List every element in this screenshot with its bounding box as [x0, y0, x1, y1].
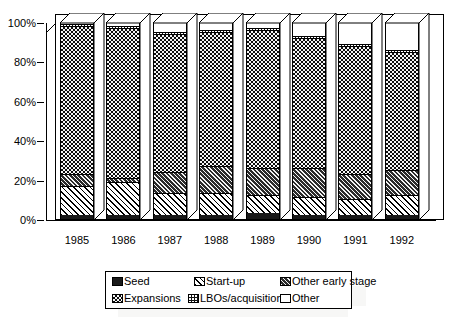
bar-group[interactable] — [153, 13, 197, 220]
bar-segment — [107, 182, 139, 215]
bar-group[interactable] — [385, 13, 429, 220]
bar-segment — [293, 168, 325, 198]
bar-segment — [154, 32, 186, 34]
y-axis-tick-label: 20% — [14, 176, 36, 186]
bar-segment — [339, 199, 371, 215]
bar-top-cap — [338, 13, 384, 25]
bar-segment — [107, 178, 139, 182]
bar-segment — [339, 44, 371, 46]
legend-item[interactable]: Expansions — [112, 291, 181, 305]
bar-segment — [386, 215, 418, 219]
bar-top-cap — [385, 13, 431, 25]
bar-segment — [247, 28, 279, 30]
bar-segment — [200, 193, 232, 215]
bar-segment — [247, 195, 279, 213]
lbos-swatch-icon — [188, 294, 199, 303]
y-axis-tick-label: 60% — [14, 97, 36, 107]
bar-front-face — [385, 23, 419, 220]
y-axis-tick-mark — [37, 62, 44, 63]
bar-segment — [247, 30, 279, 168]
bar-segment — [339, 215, 371, 219]
bar-series-container — [46, 14, 446, 230]
legend-item[interactable]: Seed — [112, 274, 150, 288]
bar-segment — [200, 30, 232, 32]
y-axis-tick-mark — [37, 220, 44, 221]
y-axis-tick-mark — [37, 102, 44, 103]
bar-segment — [61, 174, 93, 186]
bar-top-cap — [153, 13, 199, 25]
other-swatch-icon — [280, 294, 291, 303]
bar-top-cap — [60, 13, 106, 25]
bar-segment — [386, 22, 418, 50]
bar-group[interactable] — [338, 13, 382, 220]
bar-segment — [107, 26, 139, 28]
legend-row-2: ExpansionsLBOs/acquisitionsOther — [106, 291, 351, 308]
bar-top-cap — [106, 13, 152, 25]
startup-swatch-icon — [194, 277, 205, 286]
bar-group[interactable] — [60, 13, 104, 220]
legend-item[interactable]: Other — [280, 291, 320, 305]
bar-front-face — [60, 23, 94, 220]
y-axis-tick-label: 80% — [14, 57, 36, 67]
bar-top-cap — [292, 13, 338, 25]
bar-segment — [107, 215, 139, 219]
bar-front-face — [106, 23, 140, 220]
bar-front-face — [199, 23, 233, 220]
bar-group[interactable] — [246, 13, 290, 220]
legend-item-label: Expansions — [124, 292, 181, 304]
expansions-swatch-icon — [112, 294, 123, 303]
x-axis-tick-label: 1992 — [374, 234, 430, 246]
chart-figure: 100%80%60%40%20%0% 198519861987198819891… — [0, 0, 457, 335]
bar-front-face — [246, 23, 280, 220]
bar-segment — [247, 213, 279, 219]
bar-segment — [200, 215, 232, 219]
bar-segment — [61, 186, 93, 216]
legend-item[interactable]: Start-up — [194, 274, 245, 288]
bar-top-cap — [246, 13, 292, 25]
bar-group[interactable] — [199, 13, 243, 220]
legend-row-1: SeedStart-upOther early stage — [106, 274, 351, 291]
legend-item-label: LBOs/acquisitions — [200, 292, 288, 304]
bar-segment — [200, 166, 232, 194]
y-axis-tick-label: 40% — [14, 136, 36, 146]
bar-segment — [61, 26, 93, 174]
bar-segment — [386, 195, 418, 215]
y-axis-tick-mark — [37, 181, 44, 182]
bar-segment — [293, 215, 325, 219]
legend-item[interactable]: Other early stage — [280, 274, 376, 288]
seed-swatch-icon — [112, 277, 123, 286]
y-axis-tick-mark — [37, 141, 44, 142]
bar-segment — [339, 174, 371, 200]
y-axis-tick-mark — [37, 23, 44, 24]
bar-segment — [154, 34, 186, 172]
y-axis-tick-label: 0% — [20, 215, 36, 225]
scan-artifact — [118, 309, 348, 317]
earlystage-swatch-icon — [280, 277, 291, 286]
bar-front-face — [338, 23, 372, 220]
legend-item-label: Other early stage — [292, 275, 376, 287]
bar-segment — [293, 36, 325, 38]
legend-item[interactable]: LBOs/acquisitions — [188, 291, 288, 305]
legend-item-label: Start-up — [206, 275, 245, 287]
bar-group[interactable] — [292, 13, 336, 220]
bar-segment — [339, 46, 371, 174]
bar-segment — [293, 38, 325, 168]
legend-item-label: Other — [292, 292, 320, 304]
bar-segment — [293, 197, 325, 215]
bar-top-cap — [199, 13, 245, 25]
bar-segment — [154, 193, 186, 215]
bar-segment — [154, 172, 186, 194]
bar-segment — [107, 28, 139, 178]
bar-segment — [386, 50, 418, 52]
bar-segment — [386, 170, 418, 196]
y-axis: 100%80%60%40%20%0% — [0, 14, 44, 230]
bar-segment — [61, 215, 93, 219]
y-axis-tick-label: 100% — [8, 18, 36, 28]
bar-segment — [339, 22, 371, 44]
chart-legend: SeedStart-upOther early stage Expansions… — [105, 271, 352, 309]
bar-segment — [154, 215, 186, 219]
bar-segment — [247, 168, 279, 196]
bar-group[interactable] — [106, 13, 150, 220]
legend-item-label: Seed — [124, 275, 150, 287]
bar-segment — [386, 52, 418, 170]
